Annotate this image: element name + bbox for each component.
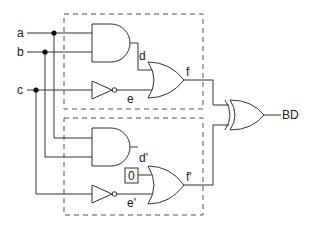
xor-gate <box>230 100 264 130</box>
or-gate-top <box>148 62 184 98</box>
input-a-label: a <box>17 26 24 40</box>
or-gate-bottom <box>148 166 184 204</box>
not-bubble-top <box>112 88 117 93</box>
signal-d-label: d <box>139 49 146 63</box>
input-b-label: b <box>17 45 24 59</box>
and-gate-top <box>92 24 130 62</box>
constant-zero-label: 0 <box>128 169 135 183</box>
and-gate-bottom <box>92 128 130 166</box>
wire-c-branch <box>36 90 92 194</box>
wire-a-branch <box>54 33 92 138</box>
signal-d-prime-label: d' <box>139 151 148 165</box>
signal-e-label: e <box>127 92 134 106</box>
junction-dot-a <box>51 30 56 35</box>
output-bd-label: BD <box>282 108 299 122</box>
signal-f-label: f <box>186 65 190 79</box>
not-bubble-bottom <box>112 192 117 197</box>
not-gate-bottom <box>92 185 112 203</box>
circuit-diagram: a b c d e f d' 0 e' f' BD <box>0 0 309 228</box>
junction-dot-c <box>33 87 38 92</box>
junction-dot-b <box>42 49 47 54</box>
input-c-label: c <box>17 83 23 97</box>
signal-f-prime-label: f' <box>186 170 192 184</box>
wire-f <box>184 80 229 105</box>
wire-b-branch <box>45 52 92 157</box>
not-gate-top <box>92 81 112 99</box>
signal-e-prime-label: e' <box>127 196 136 210</box>
